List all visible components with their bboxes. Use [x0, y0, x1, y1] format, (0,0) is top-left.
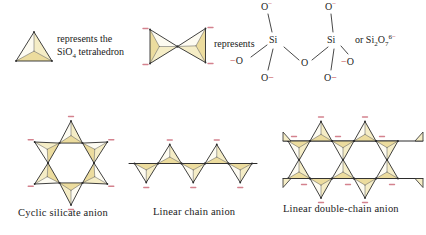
formula-alternative-notation: or Si2O76−: [355, 33, 396, 48]
alt-o: O: [378, 34, 385, 45]
formula-silicon-right: Si: [327, 34, 335, 46]
alt-superscript: 6−: [388, 33, 395, 41]
linear-chain-anion-drawing: [129, 140, 257, 188]
formula-bottom-right-oxygen: O−: [324, 72, 337, 84]
charge-minus: −: [331, 72, 337, 83]
caption-linear-double-chain-anion: Linear double-chain anion: [283, 203, 399, 215]
charge-minus: −: [268, 0, 272, 8]
formula-left-terminal-oxygen: −O: [230, 55, 243, 67]
sio4-formula-base: SiO: [57, 46, 73, 57]
sio4-formula-rest: tetrahedron: [76, 46, 124, 57]
charge-minus: −: [332, 0, 336, 8]
atom-o: O: [347, 56, 354, 67]
formula-bridging-oxygen: O: [301, 57, 308, 69]
sio4-tetrahedron-icon: [15, 31, 53, 62]
linear-double-chain-anion-drawing: [283, 117, 423, 203]
alt-prefix: or Si: [355, 34, 374, 45]
formula-silicon-left: Si: [269, 34, 277, 46]
charge-minus: −: [268, 72, 274, 83]
charge-minus: −: [392, 33, 396, 41]
corner-sharing-tetrahedra-icon: [143, 28, 213, 65]
formula-top-left-oxygen: O−: [261, 0, 272, 13]
legend-caption-line2: SiO4 tetrahedron: [57, 46, 124, 60]
formula-right-terminal-oxygen: −O: [341, 56, 354, 68]
silicate-diagram: represents the SiO4 tetrahedron represen…: [0, 0, 426, 235]
atom-o: O: [236, 55, 243, 66]
caption-linear-chain-anion: Linear chain anion: [153, 206, 235, 218]
formula-bottom-left-oxygen: O−: [261, 72, 274, 84]
pair-legend-caption: represents: [214, 38, 255, 50]
cyclic-silicate-anion-drawing: [28, 117, 114, 210]
legend-caption-line1: represents the: [57, 33, 112, 45]
alt-subscript-7: 7: [385, 40, 389, 48]
formula-top-right-oxygen: O−: [325, 0, 336, 13]
caption-cyclic-silicate-anion: Cyclic silicate anion: [18, 207, 108, 219]
